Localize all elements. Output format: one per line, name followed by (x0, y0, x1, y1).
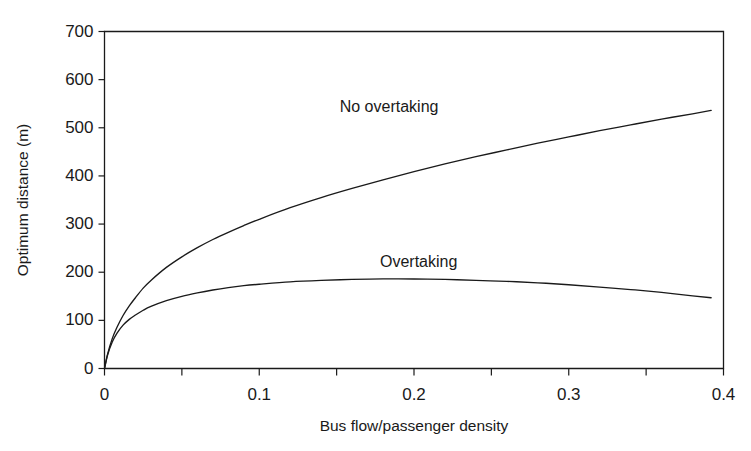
x-tick-label: 0 (75, 386, 135, 403)
x-tick-label: 0.1 (229, 386, 289, 403)
series-label-no-overtaking: No overtaking (340, 99, 439, 115)
y-tick-label: 500 (65, 119, 93, 136)
plot-frame (105, 32, 724, 369)
y-tick-label: 600 (65, 71, 93, 88)
x-tick-label: 0.4 (694, 386, 751, 403)
x-axis-title: Bus flow/passenger density (105, 418, 724, 434)
axis-ticks (99, 32, 724, 376)
y-tick-label: 0 (84, 360, 93, 377)
y-tick-label: 400 (65, 167, 93, 184)
y-axis-title: Optimum distance (m) (15, 124, 31, 276)
y-tick-label: 700 (65, 23, 93, 40)
series-label-overtaking: Overtaking (380, 254, 457, 270)
y-tick-label: 100 (65, 311, 93, 328)
plot-canvas (0, 0, 751, 451)
x-tick-label: 0.2 (384, 386, 444, 403)
chart-figure: 0100200300400500600700 00.10.20.30.4 Opt… (0, 0, 751, 451)
y-tick-label: 200 (65, 263, 93, 280)
data-series-lines (105, 110, 712, 368)
y-tick-label: 300 (65, 215, 93, 232)
x-tick-label: 0.3 (539, 386, 599, 403)
